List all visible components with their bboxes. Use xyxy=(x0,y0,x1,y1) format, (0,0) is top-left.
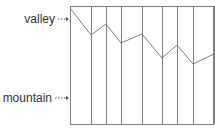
valley-arrow-icon xyxy=(58,17,69,21)
fold-lines xyxy=(71,6,215,124)
fold-diagram: valley mountain xyxy=(0,0,215,128)
mountain-label: mountain xyxy=(3,91,52,105)
valley-label: valley xyxy=(24,12,55,26)
mountain-arrow-icon xyxy=(55,96,69,100)
